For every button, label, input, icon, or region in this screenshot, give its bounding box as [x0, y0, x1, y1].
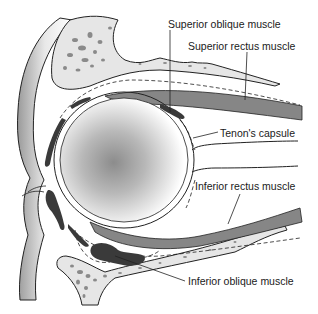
tenons-capsule-leader	[193, 132, 218, 138]
orbital-floor-bone	[57, 226, 287, 305]
label-superior-rectus-muscle: Superior rectus muscle	[188, 40, 295, 52]
label-inferior-rectus-muscle: Inferior rectus muscle	[195, 180, 295, 192]
label-superior-oblique-muscle: Superior oblique muscle	[168, 18, 281, 30]
label-tenons-capsule: Tenon's capsule	[220, 127, 295, 139]
inferior-rectus-leader	[228, 194, 240, 224]
optic-nerve	[192, 141, 298, 172]
label-inferior-oblique-muscle: Inferior oblique muscle	[188, 275, 294, 287]
